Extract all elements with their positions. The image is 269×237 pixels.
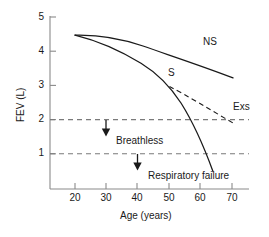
y-tick-label-4: 4 xyxy=(28,46,44,56)
series-line-s xyxy=(75,35,213,171)
fev-decline-chart: 5 4 3 2 1 20 30 40 50 60 70 FEV (L) Age … xyxy=(0,0,269,237)
y-tick-label-3: 3 xyxy=(28,80,44,90)
x-axis-ticks xyxy=(75,183,232,189)
x-tick-label-20: 20 xyxy=(64,193,86,203)
x-tick-label-70: 70 xyxy=(221,193,243,203)
y-tick-label-2: 2 xyxy=(28,114,44,124)
x-axis-title: Age (years) xyxy=(120,211,172,221)
y-axis-title: FEV (L) xyxy=(16,88,26,122)
y-tick-label-1: 1 xyxy=(28,148,44,158)
axis-lines xyxy=(50,16,249,189)
series-label-exs: Exs xyxy=(233,102,250,112)
series-label-ns: NS xyxy=(203,37,217,47)
x-tick-label-50: 50 xyxy=(158,193,180,203)
annotation-respiratory-failure: Respiratory failure xyxy=(148,171,229,181)
series-label-s: S xyxy=(168,68,175,78)
x-tick-label-40: 40 xyxy=(126,193,148,203)
annotation-breathless: Breathless xyxy=(116,136,163,146)
x-tick-label-60: 60 xyxy=(189,193,211,203)
respiratory-failure-arrow xyxy=(133,154,141,171)
series-line-exs xyxy=(170,87,234,124)
x-tick-label-30: 30 xyxy=(95,193,117,203)
breathless-arrow xyxy=(102,120,110,137)
y-axis-ticks xyxy=(50,17,56,154)
y-tick-label-5: 5 xyxy=(28,12,44,22)
